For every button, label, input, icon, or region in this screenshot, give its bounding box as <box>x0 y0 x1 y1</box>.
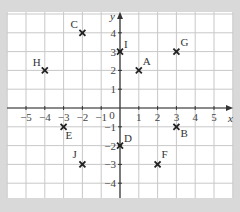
y-tick-label: −2 <box>104 140 116 152</box>
x-axis-label: x <box>227 112 233 124</box>
y-tick-label: 4 <box>111 27 117 39</box>
x-tick-label: 4 <box>192 111 198 123</box>
x-tick-label: −2 <box>77 111 89 123</box>
point-label: C <box>70 18 77 30</box>
x-tick-label: 3 <box>174 111 180 123</box>
point-label: D <box>124 132 132 144</box>
y-tick-label: 2 <box>111 64 117 76</box>
point-label: G <box>180 36 188 48</box>
point-label: B <box>180 127 187 139</box>
x-tick-label: 5 <box>211 111 217 123</box>
y-tick-label: 3 <box>111 46 117 58</box>
x-tick-label: −3 <box>58 111 70 123</box>
point-label: A <box>143 55 151 67</box>
point-label: H <box>33 56 41 68</box>
y-tick-label: 1 <box>111 83 117 95</box>
point-label: F <box>162 148 168 160</box>
y-tick-label: −3 <box>104 158 116 170</box>
coordinate-grid: xy−5−4−3−2−112345−4−3−2−112340ABCDEFGHIJ <box>0 0 240 212</box>
point-label: I <box>124 38 128 50</box>
x-tick-label: 1 <box>136 111 142 123</box>
y-tick-label: −1 <box>104 121 116 133</box>
x-tick-label: 2 <box>155 111 161 123</box>
x-tick-label: −4 <box>39 111 51 123</box>
point-label: E <box>66 129 73 141</box>
x-tick-label: −5 <box>20 111 32 123</box>
origin-label: 0 <box>109 109 115 121</box>
y-axis-label: y <box>109 10 115 22</box>
point-label: J <box>72 148 77 160</box>
y-tick-label: −4 <box>104 177 116 189</box>
